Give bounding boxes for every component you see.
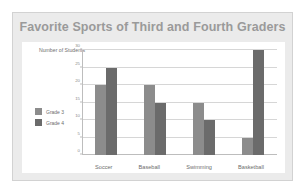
bar-group <box>193 50 215 155</box>
plot-area: 051015202530 <box>82 50 277 155</box>
bar <box>95 85 106 155</box>
legend-label-grade-3: Grade 3 <box>46 109 64 115</box>
y-axis-tick-label: 5 <box>78 130 80 135</box>
y-axis-tick-label: 30 <box>75 43 80 48</box>
x-axis-label: Baseball <box>139 164 160 170</box>
bar <box>144 85 155 155</box>
chart-card: Favorite Sports of Third and Fourth Grad… <box>12 12 293 181</box>
bar-group <box>95 50 117 155</box>
x-axis-label: Swimming <box>186 164 212 170</box>
y-axis-tick-label: 15 <box>75 95 80 100</box>
chart-legend: Grade 3 Grade 4 <box>35 108 64 130</box>
y-axis-tick-label: 25 <box>75 60 80 65</box>
x-axis-label: Soccer <box>95 164 112 170</box>
legend-swatch-grade-4 <box>35 119 42 126</box>
bar <box>204 120 215 155</box>
bar <box>155 103 166 156</box>
bar-group <box>242 50 264 155</box>
y-axis-tick-label: 20 <box>75 78 80 83</box>
x-axis-labels: SoccerBaseballSwimmingBasketball <box>82 164 277 170</box>
legend-swatch-grade-3 <box>35 108 42 115</box>
legend-item-grade-4: Grade 4 <box>35 119 64 126</box>
legend-item-grade-3: Grade 3 <box>35 108 64 115</box>
bar-group <box>144 50 166 155</box>
chart-title: Favorite Sports of Third and Fourth Grad… <box>13 20 292 34</box>
bar <box>193 103 204 156</box>
chart-panel: Number of Students Grade 3 Grade 4 05101… <box>22 42 285 173</box>
y-axis-tick-label: 0 <box>78 148 80 153</box>
bar-groups <box>82 50 277 155</box>
bar <box>106 68 117 156</box>
legend-label-grade-4: Grade 4 <box>46 120 64 126</box>
bar <box>242 138 253 155</box>
y-axis-tick-label: 10 <box>75 113 80 118</box>
bar <box>253 50 264 155</box>
x-axis-label: Basketball <box>238 164 264 170</box>
